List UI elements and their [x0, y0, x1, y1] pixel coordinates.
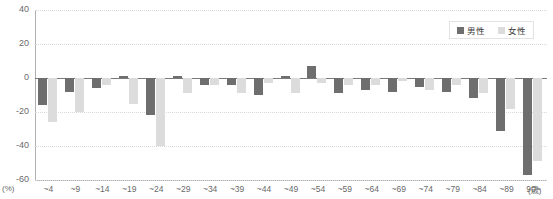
bar-female[interactable]	[371, 78, 380, 85]
bar-male[interactable]	[388, 78, 397, 92]
legend-label: 女性	[508, 24, 526, 36]
bar-group	[333, 10, 360, 180]
y-axis-labels: 40200-20-40-60	[0, 0, 33, 199]
bar-female[interactable]	[533, 78, 542, 161]
x-tick-label: ~34	[197, 184, 224, 194]
bar-male[interactable]	[281, 76, 290, 78]
bar-male[interactable]	[415, 78, 424, 87]
bar-female[interactable]	[129, 78, 138, 104]
x-tick-label: ~74	[412, 184, 439, 194]
bar-female[interactable]	[506, 78, 515, 109]
bar-group	[37, 10, 64, 180]
bar-group	[172, 10, 199, 180]
x-tick-label: ~44	[251, 184, 278, 194]
x-tick-label: ~89	[493, 184, 520, 194]
bar-female[interactable]	[264, 78, 273, 83]
y-tick-label: -20	[16, 106, 29, 116]
x-axis-unit: (歳)	[528, 184, 541, 195]
x-tick-label: ~14	[89, 184, 116, 194]
bar-male[interactable]	[200, 78, 209, 85]
bar-group	[226, 10, 253, 180]
bar-group	[64, 10, 91, 180]
bar-female[interactable]	[479, 78, 488, 93]
bar-male[interactable]	[334, 78, 343, 93]
bar-female[interactable]	[398, 78, 407, 81]
bar-female[interactable]	[425, 78, 434, 90]
x-tick-label: ~39	[224, 184, 251, 194]
bar-male[interactable]	[361, 78, 370, 90]
legend-label: 男性	[467, 24, 485, 36]
bar-group	[145, 10, 172, 180]
bar-female[interactable]	[156, 78, 165, 146]
y-tick-label: 0	[24, 72, 29, 82]
x-tick-label: ~79	[439, 184, 466, 194]
x-tick-label: ~29	[170, 184, 197, 194]
y-tick-label: 20	[19, 38, 29, 48]
bar-group	[387, 10, 414, 180]
bar-male[interactable]	[254, 78, 263, 95]
bar-male[interactable]	[38, 78, 47, 105]
bar-male[interactable]	[119, 76, 128, 78]
bar-female[interactable]	[75, 78, 84, 112]
bar-male[interactable]	[173, 76, 182, 78]
bar-male[interactable]	[146, 78, 155, 115]
bar-male[interactable]	[307, 66, 316, 78]
x-tick-label: ~59	[331, 184, 358, 194]
bar-male[interactable]	[523, 78, 532, 175]
gridline	[35, 180, 547, 181]
bar-chart: 40200-20-40-60 (%) ~4~9~14~19~24~29~34~3…	[0, 0, 553, 199]
bar-male[interactable]	[92, 78, 101, 88]
y-tick-label: 40	[19, 4, 29, 14]
bar-female[interactable]	[291, 78, 300, 93]
x-axis-labels: ~4~9~14~19~24~29~34~39~44~49~54~59~64~69…	[35, 182, 547, 199]
legend-swatch-icon	[457, 27, 464, 34]
x-tick-label: ~49	[278, 184, 305, 194]
bar-group	[199, 10, 226, 180]
legend-swatch-icon	[498, 27, 505, 34]
bar-group	[280, 10, 307, 180]
x-tick-label: ~24	[143, 184, 170, 194]
bar-female[interactable]	[237, 78, 246, 93]
bar-male[interactable]	[469, 78, 478, 98]
bar-female[interactable]	[210, 78, 219, 85]
x-tick-label: ~69	[385, 184, 412, 194]
chart-legend: 男性女性	[449, 21, 534, 39]
bar-female[interactable]	[344, 78, 353, 85]
x-tick-label: ~54	[304, 184, 331, 194]
y-tick-label: -60	[16, 174, 29, 184]
bar-group	[360, 10, 387, 180]
bar-female[interactable]	[452, 78, 461, 85]
bar-female[interactable]	[183, 78, 192, 93]
y-tick-label: -40	[16, 140, 29, 150]
bar-group	[414, 10, 441, 180]
x-tick-label: ~19	[116, 184, 143, 194]
x-tick-label: ~84	[466, 184, 493, 194]
bar-female[interactable]	[317, 78, 326, 83]
bar-female[interactable]	[102, 78, 111, 85]
clipped-title	[14, 0, 434, 6]
bar-male[interactable]	[496, 78, 505, 131]
x-tick-label: ~64	[358, 184, 385, 194]
bar-group	[306, 10, 333, 180]
x-tick-label: ~4	[35, 184, 62, 194]
y-axis-unit: (%)	[2, 184, 14, 193]
bar-group	[118, 10, 145, 180]
bar-group	[253, 10, 280, 180]
legend-item[interactable]: 女性	[498, 24, 526, 36]
legend-item[interactable]: 男性	[457, 24, 485, 36]
bar-male[interactable]	[442, 78, 451, 92]
bar-group	[91, 10, 118, 180]
bar-male[interactable]	[227, 78, 236, 85]
x-tick-label: ~9	[62, 184, 89, 194]
bar-male[interactable]	[65, 78, 74, 92]
bar-female[interactable]	[48, 78, 57, 122]
